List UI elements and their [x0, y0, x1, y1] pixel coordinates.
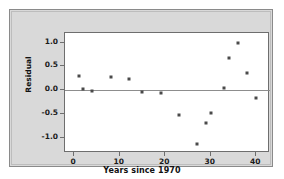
- zero-reference-line: [65, 90, 270, 91]
- y-axis-tick-label: 1.0: [45, 38, 58, 46]
- data-point: [205, 121, 208, 124]
- x-axis-title: Years since 1970: [10, 166, 274, 175]
- y-axis-title: Residual: [24, 45, 33, 105]
- data-point: [177, 114, 180, 117]
- data-point: [91, 89, 94, 92]
- x-axis-tick-mark: [119, 152, 120, 156]
- data-point: [141, 91, 144, 94]
- data-point: [127, 78, 130, 81]
- x-axis-tick-label: 30: [198, 157, 222, 166]
- chart-panel: Residual 1.00.50.0-0.5-1.0 010203040 Yea…: [9, 9, 273, 167]
- data-point: [109, 76, 112, 79]
- data-point: [223, 86, 226, 89]
- data-point: [77, 75, 80, 78]
- x-axis-tick-label: 40: [243, 157, 267, 166]
- data-point: [196, 142, 199, 145]
- data-point: [255, 96, 258, 99]
- y-axis-tick-label: -0.5: [42, 109, 58, 117]
- residual-plot-figure: Residual 1.00.50.0-0.5-1.0 010203040 Yea…: [0, 0, 284, 179]
- data-point: [82, 88, 85, 91]
- data-point: [246, 71, 249, 74]
- y-axis-tick-labels: 1.00.50.0-0.5-1.0: [36, 10, 58, 168]
- x-axis-tick-mark: [73, 152, 74, 156]
- y-axis-tick-label: 0.0: [45, 85, 58, 93]
- plot-area: [64, 32, 269, 152]
- x-axis-tick-label: 10: [107, 157, 131, 166]
- data-point: [228, 56, 231, 59]
- x-axis-tick-label: 0: [61, 157, 85, 166]
- x-axis-tick-mark: [164, 152, 165, 156]
- x-axis-tick-label: 20: [152, 157, 176, 166]
- y-axis-tick-label: 0.5: [45, 61, 58, 69]
- data-point: [209, 112, 212, 115]
- data-point: [237, 41, 240, 44]
- data-point: [159, 91, 162, 94]
- y-axis-tick-label: -1.0: [42, 133, 58, 141]
- x-axis-tick-mark: [255, 152, 256, 156]
- x-axis-tick-mark: [210, 152, 211, 156]
